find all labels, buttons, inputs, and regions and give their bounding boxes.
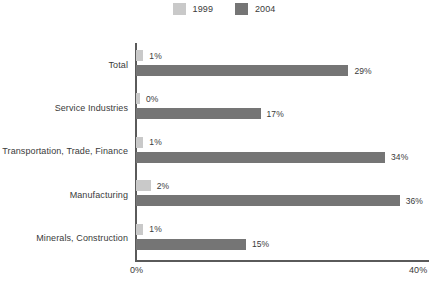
bar-value-1999: 1% — [149, 51, 162, 61]
category-row-minerals-construction: Minerals, Construction 1% 15% — [136, 217, 429, 260]
bar-1999 — [136, 224, 143, 235]
legend-label-1999: 1999 — [193, 4, 213, 15]
bar-group-2004: 36% — [136, 195, 429, 206]
legend-item-2004: 2004 — [235, 3, 275, 15]
category-row-total: Total 1% 29% — [136, 43, 429, 86]
bar-2004 — [136, 65, 348, 76]
chart-legend: 1999 2004 — [0, 3, 448, 15]
bar-value-2004: 17% — [267, 109, 284, 119]
legend-label-2004: 2004 — [255, 4, 275, 15]
bar-value-2004: 15% — [252, 239, 269, 249]
category-label: Total — [108, 59, 128, 70]
bar-value-1999: 1% — [149, 224, 162, 234]
bar-value-1999: 0% — [146, 94, 159, 104]
bar-group-1999: 1% — [136, 224, 429, 235]
bar-2004 — [136, 108, 261, 119]
bar-2004 — [136, 239, 246, 250]
category-row-manufacturing: Manufacturing 2% 36% — [136, 173, 429, 216]
category-row-transportation-trade-finance: Transportation, Trade, Finance 1% 34% — [136, 130, 429, 173]
x-axis-line — [135, 260, 429, 262]
bar-value-2004: 29% — [354, 66, 371, 76]
bar-2004 — [136, 152, 385, 163]
x-axis-tick-max: 40% — [409, 265, 427, 276]
category-label: Manufacturing — [70, 189, 128, 200]
x-axis-tick-min: 0% — [130, 265, 143, 276]
bar-group-1999: 1% — [136, 50, 429, 61]
bar-1999 — [136, 93, 140, 104]
bar-value-2004: 36% — [406, 196, 423, 206]
bar-value-2004: 34% — [391, 152, 408, 162]
bar-group-1999: 0% — [136, 93, 429, 104]
bar-chart: 1999 2004 Total 1% 29% Service Industrie… — [0, 0, 448, 289]
bar-group-2004: 17% — [136, 108, 429, 119]
bar-2004 — [136, 195, 400, 206]
bar-value-1999: 1% — [149, 137, 162, 147]
bar-value-1999: 2% — [157, 181, 170, 191]
category-row-service-industries: Service Industries 0% 17% — [136, 86, 429, 129]
category-label: Minerals, Construction — [36, 233, 128, 244]
category-label: Transportation, Trade, Finance — [2, 146, 128, 157]
bar-group-2004: 15% — [136, 239, 429, 250]
bar-group-2004: 34% — [136, 152, 429, 163]
bar-group-2004: 29% — [136, 65, 429, 76]
bar-1999 — [136, 180, 151, 191]
plot-area: Total 1% 29% Service Industries 0% 17% T… — [136, 43, 429, 260]
bar-1999 — [136, 137, 143, 148]
bar-group-1999: 1% — [136, 137, 429, 148]
legend-swatch-2004 — [235, 3, 248, 15]
legend-item-1999: 1999 — [173, 3, 213, 15]
bar-1999 — [136, 50, 143, 61]
legend-swatch-1999 — [173, 3, 186, 15]
category-label: Service Industries — [55, 103, 128, 114]
bar-group-1999: 2% — [136, 180, 429, 191]
